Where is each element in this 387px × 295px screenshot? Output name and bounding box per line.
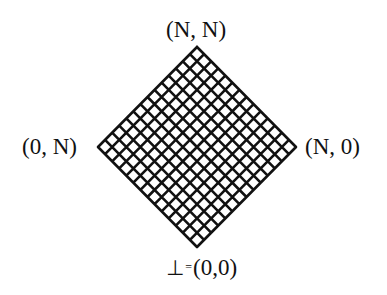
left-vertex-label: (0, N) — [22, 135, 77, 158]
grid-lines — [98, 47, 296, 247]
equals-sign: = — [185, 261, 192, 273]
bottom-vertex-label: ⊥=(0,0) — [166, 256, 237, 279]
top-vertex-label: (N, N) — [166, 18, 226, 41]
bottom-element-symbol: ⊥ — [166, 258, 184, 279]
lattice-diagram: (N, N) (0, N) (N, 0) ⊥=(0,0) — [0, 0, 387, 295]
bottom-coordinate: (0,0) — [193, 255, 237, 280]
right-vertex-label: (N, 0) — [305, 135, 360, 158]
